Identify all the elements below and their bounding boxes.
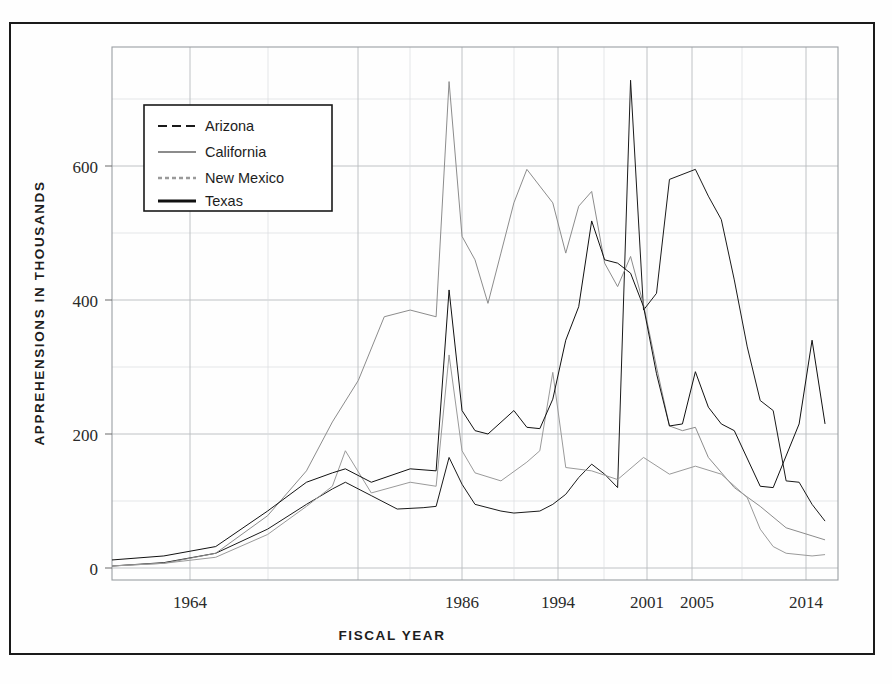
legend-label-new-mexico: New Mexico [205, 170, 284, 186]
x-tick-label-2014: 2014 [789, 593, 824, 612]
x-tick-label-1986: 1986 [445, 593, 479, 612]
x-tick-label-2001: 2001 [630, 593, 664, 612]
x-tick-label-1994: 1994 [541, 593, 576, 612]
y-tick-label-400: 400 [73, 292, 99, 311]
y-tick-label-200: 200 [73, 426, 99, 445]
line-chart: 0 200 400 600 1964 1986 1994 2001 2005 2… [0, 0, 892, 684]
y-axis-title: APPREHENSIONS IN THOUSANDS [32, 180, 47, 445]
legend-label-arizona: Arizona [205, 118, 255, 134]
x-tick-label-1964: 1964 [173, 593, 208, 612]
y-tick-marks [105, 166, 112, 568]
y-tick-label-600: 600 [73, 158, 99, 177]
legend: Arizona California New Mexico Texas [144, 105, 332, 211]
legend-label-california: California [205, 144, 267, 160]
x-tick-label-2005: 2005 [680, 593, 714, 612]
y-tick-label-0: 0 [90, 560, 99, 579]
x-axis-title: FISCAL YEAR [338, 628, 445, 643]
series-line-texas [112, 221, 825, 560]
legend-label-texas: Texas [205, 193, 243, 209]
chart-page: 0 200 400 600 1964 1986 1994 2001 2005 2… [0, 0, 892, 684]
series-line-new-mexico [112, 355, 825, 566]
